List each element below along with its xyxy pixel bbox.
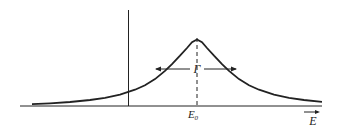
width-label: Γ	[193, 62, 202, 76]
resonance-diagram: Γ E0 E	[0, 0, 337, 132]
peak-label: E0	[187, 108, 199, 122]
arrowhead-right-icon	[231, 67, 237, 72]
resonance-curve	[32, 40, 322, 105]
x-axis-label: E	[308, 114, 317, 128]
arrowhead-left-icon	[155, 67, 161, 72]
